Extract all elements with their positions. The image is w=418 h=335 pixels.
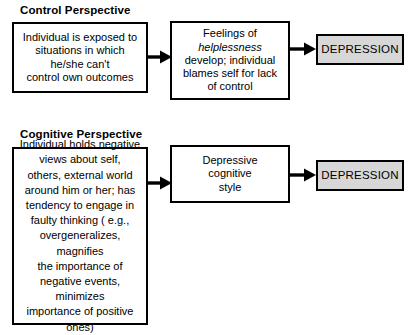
- node-cognitive-cause: Individual holds negative views about se…: [12, 147, 148, 325]
- node-control-mediator: Feelings of helplessness develop; indivi…: [170, 21, 290, 100]
- node-control-cause-label: Individual is exposed to situations in w…: [20, 31, 140, 84]
- section-heading-control-perspective: Control Perspective: [20, 4, 131, 17]
- mediator-text-emphasis: helplessness: [198, 41, 262, 53]
- node-control-cause: Individual is exposed to situations in w…: [12, 22, 148, 93]
- node-cognitive-cause-label: Individual holds negative views about se…: [17, 137, 143, 335]
- arrow-cognitive-1: [147, 176, 172, 190]
- node-control-outcome-label: DEPRESSION: [318, 43, 401, 56]
- node-cognitive-mediator: Depressive cognitive style: [170, 145, 290, 203]
- node-cognitive-mediator-label: Depressive cognitive style: [199, 154, 260, 194]
- mediator-text-before: Feelings of: [203, 27, 257, 39]
- node-cognitive-outcome: DEPRESSION: [316, 160, 404, 191]
- arrow-control-2: [290, 42, 316, 56]
- node-control-outcome: DEPRESSION: [316, 34, 404, 65]
- mediator-text-after: develop; individual blames self for lack…: [183, 54, 277, 92]
- arrow-control-1: [147, 50, 172, 64]
- arrow-cognitive-2: [290, 168, 316, 182]
- node-control-mediator-label: Feelings of helplessness develop; indivi…: [180, 27, 280, 93]
- node-cognitive-outcome-label: DEPRESSION: [318, 169, 401, 182]
